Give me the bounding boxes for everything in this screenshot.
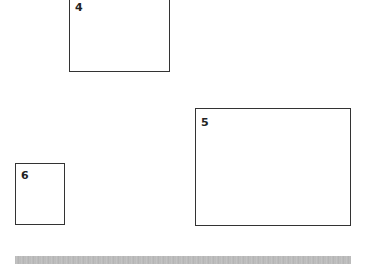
box-5-label: 5 (201, 117, 209, 128)
gray-bar (15, 256, 351, 264)
box-4-label: 4 (75, 2, 83, 13)
box-6: 6 (15, 163, 65, 225)
box-4: 4 (69, 0, 170, 72)
box-5: 5 (195, 108, 351, 226)
box-6-label: 6 (21, 170, 29, 181)
